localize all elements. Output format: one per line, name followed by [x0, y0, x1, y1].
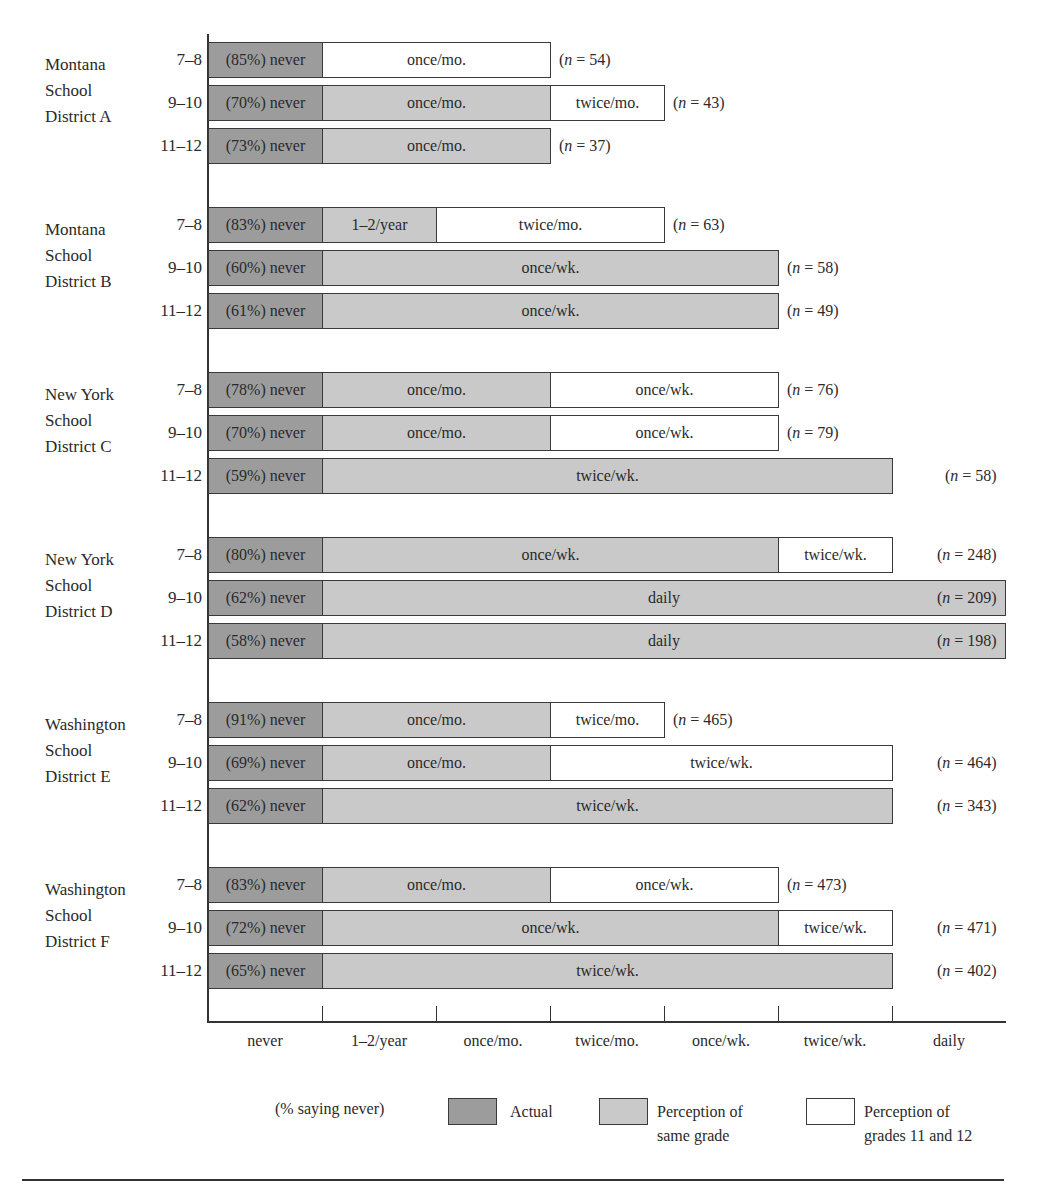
bar-segment-actual: (83%) never [208, 867, 323, 903]
grade-label: 11–12 [140, 623, 202, 659]
sample-size-label: (n= 473) [787, 867, 847, 903]
grade-label: 7–8 [140, 537, 202, 573]
bar-segment-actual: (80%) never [208, 537, 323, 573]
bar-segment-same-grade: twice/wk. [322, 458, 893, 494]
bar-segment-same-grade: once/wk. [322, 537, 779, 573]
sample-size-label: (n= 464) [937, 745, 997, 781]
bar-segment-actual: (61%) never [208, 293, 323, 329]
bar-segment-same-grade: daily [322, 623, 1006, 659]
bar-segment-actual: (83%) never [208, 207, 323, 243]
bottom-rule [22, 1179, 1004, 1181]
legend-label-upper-grades: Perception of grades 11 and 12 [864, 1100, 972, 1148]
bar-segment-upper-grades: twice/wk. [778, 537, 893, 573]
grade-label: 11–12 [140, 128, 202, 164]
bar-segment-same-grade: once/wk. [322, 250, 779, 286]
sample-size-label: (n= 471) [937, 910, 997, 946]
x-axis-tick-label: once/wk. [664, 1032, 778, 1050]
bar-segment-actual: (72%) never [208, 910, 323, 946]
sample-size-label: (n= 58) [787, 250, 839, 286]
district-label: Montana School District A [45, 52, 112, 130]
bar-segment-actual: (78%) never [208, 372, 323, 408]
bar-segment-same-grade: twice/wk. [322, 788, 893, 824]
sample-size-label: (n= 198) [937, 623, 997, 659]
bar-segment-same-grade: once/mo. [322, 85, 551, 121]
bar-segment-actual: (62%) never [208, 788, 323, 824]
sample-size-label: (n= 37) [559, 128, 611, 164]
bar-segment-upper-grades: twice/mo. [436, 207, 665, 243]
x-axis-tick [778, 1006, 779, 1022]
bar-segment-upper-grades: twice/wk. [778, 910, 893, 946]
bar-segment-upper-grades: twice/mo. [550, 702, 665, 738]
grade-label: 9–10 [140, 745, 202, 781]
x-axis-tick-label: twice/mo. [550, 1032, 664, 1050]
legend-label-actual: Actual [510, 1100, 553, 1124]
bar-segment-actual: (60%) never [208, 250, 323, 286]
legend-swatch-same-grade [599, 1098, 648, 1125]
bar-segment-same-grade: once/mo. [322, 128, 551, 164]
legend-swatch-actual [448, 1098, 497, 1125]
legend-swatch-upper-grades [806, 1098, 855, 1125]
bar-segment-same-grade: once/mo. [322, 745, 551, 781]
grade-label: 9–10 [140, 415, 202, 451]
bar-segment-actual: (70%) never [208, 85, 323, 121]
sample-size-label: (n= 54) [559, 42, 611, 78]
bar-segment-same-grade: once/mo. [322, 372, 551, 408]
legend-note: (% saying never) [275, 1100, 384, 1118]
sample-size-label: (n= 58) [945, 458, 997, 494]
grade-label: 7–8 [140, 372, 202, 408]
bar-segment-upper-grades: once/wk. [550, 372, 779, 408]
x-axis-tick [550, 1006, 551, 1022]
x-axis-tick [664, 1006, 665, 1022]
sample-size-label: (n= 79) [787, 415, 839, 451]
x-axis-tick-label: once/mo. [436, 1032, 550, 1050]
district-label: Montana School District B [45, 217, 112, 295]
bar-segment-actual: (69%) never [208, 745, 323, 781]
sample-size-label: (n= 63) [673, 207, 725, 243]
x-axis-line [207, 1021, 1006, 1023]
bar-segment-same-grade: twice/wk. [322, 953, 893, 989]
sample-size-label: (n= 49) [787, 293, 839, 329]
x-axis-tick [322, 1006, 323, 1022]
x-axis-tick [436, 1006, 437, 1022]
district-label: New York School District D [45, 547, 114, 625]
x-axis-tick-label: 1–2/year [322, 1032, 436, 1050]
grade-label: 11–12 [140, 293, 202, 329]
bar-segment-same-grade: once/wk. [322, 910, 779, 946]
district-label: New York School District C [45, 382, 114, 460]
x-axis-tick-label: never [208, 1032, 322, 1050]
bar-segment-upper-grades: once/wk. [550, 867, 779, 903]
bar-segment-upper-grades: once/wk. [550, 415, 779, 451]
bar-segment-actual: (65%) never [208, 953, 323, 989]
sample-size-label: (n= 402) [937, 953, 997, 989]
grade-label: 9–10 [140, 580, 202, 616]
bar-segment-actual: (59%) never [208, 458, 323, 494]
bar-segment-same-grade: 1–2/year [322, 207, 437, 243]
bar-segment-actual: (70%) never [208, 415, 323, 451]
x-axis-tick [892, 1006, 893, 1022]
grade-label: 7–8 [140, 867, 202, 903]
bar-segment-same-grade: once/mo. [322, 415, 551, 451]
bar-segment-upper-grades: twice/wk. [550, 745, 893, 781]
district-label: Washington School District E [45, 712, 126, 790]
grade-label: 11–12 [140, 788, 202, 824]
bar-segment-actual: (62%) never [208, 580, 323, 616]
bar-segment-same-grade: once/mo. [322, 702, 551, 738]
bar-segment-same-grade: daily [322, 580, 1006, 616]
bar-segment-actual: (73%) never [208, 128, 323, 164]
bar-segment-same-grade: once/mo. [322, 867, 551, 903]
sample-size-label: (n= 343) [937, 788, 997, 824]
x-axis-tick-label: twice/wk. [778, 1032, 892, 1050]
sample-size-label: (n= 209) [937, 580, 997, 616]
bar-segment-upper-grades: once/mo. [322, 42, 551, 78]
grade-label: 9–10 [140, 250, 202, 286]
sample-size-label: (n= 76) [787, 372, 839, 408]
grade-label: 7–8 [140, 42, 202, 78]
grade-label: 9–10 [140, 85, 202, 121]
grade-label: 7–8 [140, 207, 202, 243]
bar-segment-same-grade: once/wk. [322, 293, 779, 329]
bar-segment-actual: (58%) never [208, 623, 323, 659]
sample-size-label: (n= 248) [937, 537, 997, 573]
sample-size-label: (n= 43) [673, 85, 725, 121]
grade-label: 9–10 [140, 910, 202, 946]
bar-segment-actual: (85%) never [208, 42, 323, 78]
